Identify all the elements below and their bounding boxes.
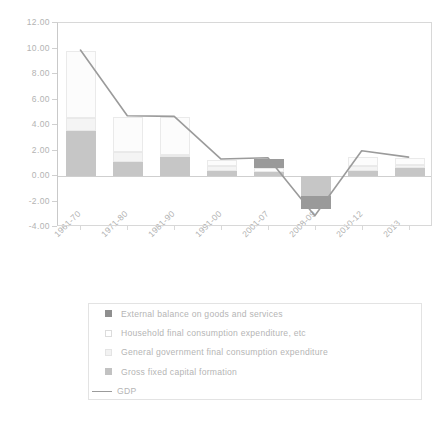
y-axis-tick-label: -4.00 <box>8 221 50 231</box>
legend-item[interactable]: External balance on goods and services <box>89 304 421 323</box>
x-axis-tick-mark <box>315 226 316 230</box>
bar-segment <box>113 152 143 162</box>
x-axis-tick-mark <box>174 226 175 230</box>
bar-segment <box>348 171 378 176</box>
stacked-bar <box>301 23 331 225</box>
legend-swatch-icon <box>105 368 112 375</box>
bar-segment <box>254 172 284 176</box>
y-axis-tick-label: 10.00 <box>8 43 50 53</box>
stacked-bar <box>254 23 284 225</box>
bar-segment <box>348 157 378 166</box>
y-axis-tick-label: 8.00 <box>8 68 50 78</box>
legend-item[interactable]: General government final consumption exp… <box>89 343 421 362</box>
stacked-bar <box>395 23 425 225</box>
plot-region <box>57 22 432 226</box>
x-axis-tick-mark <box>409 226 410 230</box>
legend-item[interactable]: Gross fixed capital formation <box>89 362 421 381</box>
legend-line-icon <box>92 391 112 392</box>
bar-segment <box>207 171 237 176</box>
bar-segment <box>348 166 378 171</box>
bar-segment <box>66 118 96 131</box>
y-axis-tick-label: 12.00 <box>8 17 50 27</box>
legend-label: Household final consumption expenditure,… <box>121 328 306 338</box>
legend-item[interactable]: Household final consumption expenditure,… <box>89 323 421 342</box>
legend-label: External balance on goods and services <box>121 309 283 319</box>
bar-segment <box>66 131 96 176</box>
legend-label: GDP <box>117 386 136 396</box>
x-axis-tick-mark <box>221 226 222 230</box>
stacked-bar <box>160 23 190 225</box>
stacked-bar <box>66 23 96 225</box>
x-axis-tick-mark <box>362 226 363 230</box>
x-axis-tick-mark <box>127 226 128 230</box>
bar-segment <box>301 176 331 196</box>
bar-segment <box>207 160 237 166</box>
x-axis-tick-mark <box>80 226 81 230</box>
bar-segment <box>395 158 425 164</box>
bar-segment <box>301 196 331 209</box>
legend-label: General government final consumption exp… <box>121 347 328 357</box>
chart-area: 12.0010.008.006.004.002.000.00-2.00-4.00… <box>0 0 445 292</box>
bar-segment <box>160 156 190 176</box>
bar-segment <box>113 117 143 153</box>
stacked-bar <box>348 23 378 225</box>
bar-segment <box>207 166 237 170</box>
legend-swatch-icon <box>105 310 112 317</box>
bar-segment <box>395 165 425 169</box>
bar-segment <box>254 159 284 169</box>
chart-legend: External balance on goods and servicesHo… <box>88 303 422 400</box>
bar-segment <box>254 168 284 172</box>
bar-segment <box>160 117 190 155</box>
stacked-bar <box>113 23 143 225</box>
bar-segment <box>66 51 96 118</box>
legend-swatch-icon <box>105 330 112 337</box>
y-axis-tick-label: 2.00 <box>8 145 50 155</box>
legend-label: Gross fixed capital formation <box>121 367 237 377</box>
legend-swatch-icon <box>105 349 112 356</box>
bar-segment <box>113 162 143 176</box>
y-axis-tick-label: 0.00 <box>8 170 50 180</box>
y-axis-tick-label: 4.00 <box>8 119 50 129</box>
x-axis-tick-mark <box>268 226 269 230</box>
bar-segment <box>395 168 425 176</box>
legend-item[interactable]: GDP <box>89 382 421 401</box>
y-axis-tick-label: -2.00 <box>8 196 50 206</box>
bar-segment <box>160 155 190 157</box>
y-axis-tick-label: 6.00 <box>8 94 50 104</box>
stacked-bar <box>207 23 237 225</box>
